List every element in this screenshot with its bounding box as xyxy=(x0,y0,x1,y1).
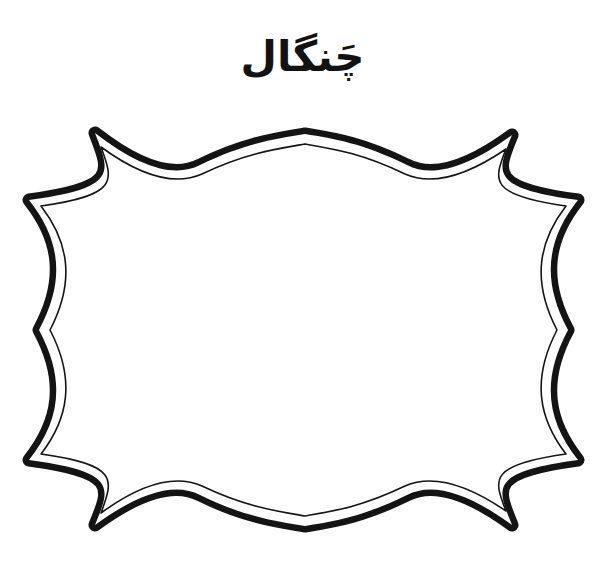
frame-interior-fill xyxy=(29,133,578,526)
page-title: چَنگال xyxy=(240,33,364,81)
title-area: چَنگال xyxy=(0,22,605,92)
ornamental-frame-svg xyxy=(0,110,605,550)
decorative-frame-container xyxy=(0,110,605,550)
worksheet-page: چَنگال xyxy=(0,0,605,561)
